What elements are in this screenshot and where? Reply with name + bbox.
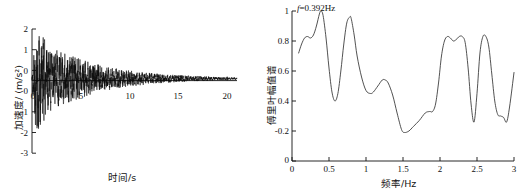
spectrum-plot-area: 1 0.8 0.6 0.4 -0.2 0 0 0.5 1 1.5 2 2.5 3… xyxy=(261,0,522,192)
spec-xtick-0: 0 xyxy=(290,165,295,174)
spec-yaxis-title: 傅里叶幅值谱 xyxy=(264,65,278,125)
spec-xtick-3: 3 xyxy=(512,165,517,174)
acceleration-plot-area: 2 1 0 0 -1 -2 -3 0 5 10 15 20 加速度/ (m/s²… xyxy=(0,0,261,192)
acc-xaxis-title: 时间/s xyxy=(108,170,136,184)
spec-xtick-1.5: 1.5 xyxy=(397,165,408,174)
peak-frequency-annotation: f=0.392Hz xyxy=(297,3,335,13)
figure-container: 2 1 0 0 -1 -2 -3 0 5 10 15 20 加速度/ (m/s²… xyxy=(0,0,522,192)
acc-xtick-0: 0 xyxy=(31,92,36,101)
spec-xtick-0.5: 0.5 xyxy=(323,165,334,174)
panel-acceleration-time-history: 2 1 0 0 -1 -2 -3 0 5 10 15 20 加速度/ (m/s²… xyxy=(0,0,261,192)
spec-ytick-1: 1 xyxy=(270,7,289,16)
spec-xtick-2: 2 xyxy=(438,165,443,174)
acc-ytick-neg3: -3 xyxy=(12,149,28,158)
acc-xtick-10: 10 xyxy=(126,92,135,101)
spec-xaxis-title: 频率/Hz xyxy=(381,176,416,190)
acc-xtick-20: 20 xyxy=(223,92,232,101)
acc-xtick-5: 5 xyxy=(79,92,84,101)
spec-ytick-0: 0 xyxy=(270,156,289,165)
acc-ytick-1: 1 xyxy=(12,46,28,55)
frequency-value: =0.392Hz xyxy=(300,3,336,13)
spec-xtick-1: 1 xyxy=(364,165,369,174)
panel-fourier-amplitude-spectrum: 1 0.8 0.6 0.4 -0.2 0 0 0.5 1 1.5 2 2.5 3… xyxy=(261,0,522,192)
fourier-spectrum-curve xyxy=(299,11,514,133)
acc-xtick-15: 15 xyxy=(174,92,183,101)
spec-ytick-0.2: -0.2 xyxy=(266,127,289,136)
spec-ytick-0.8: 0.8 xyxy=(268,37,289,46)
acc-ytick-2: 2 xyxy=(12,25,28,34)
spec-xtick-2.5: 2.5 xyxy=(471,165,482,174)
acc-yaxis-title: 加速度/ (m/s²) xyxy=(11,65,25,130)
acceleration-waveform xyxy=(32,36,237,128)
spectrum-svg xyxy=(261,0,522,192)
